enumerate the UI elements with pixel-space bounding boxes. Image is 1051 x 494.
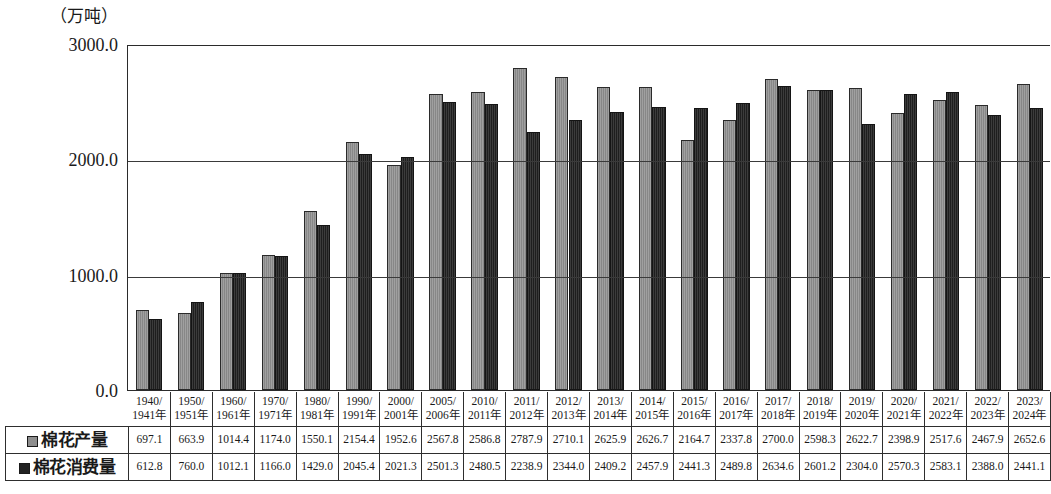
category-line: 2012年 (506, 409, 547, 423)
bar-consumption[interactable] (149, 319, 162, 390)
bar-consumption[interactable] (610, 112, 623, 390)
bar-production[interactable] (262, 255, 275, 390)
category-header-cell: 1980/1981年 (296, 392, 338, 427)
bar-production[interactable] (597, 87, 610, 390)
value-cell: 612.8 (129, 454, 171, 481)
category-line: 2013年 (548, 409, 589, 423)
bars-layer (128, 46, 1050, 390)
bar-group (422, 46, 464, 390)
bar-production[interactable] (220, 273, 233, 390)
category-line: 1951年 (171, 409, 212, 423)
bar-production[interactable] (555, 77, 568, 390)
bar-consumption[interactable] (736, 103, 749, 390)
value-cell: 2583.1 (925, 454, 967, 481)
y-tick-label: 2000.0 (69, 150, 119, 171)
bar-production[interactable] (471, 92, 484, 390)
bar-consumption[interactable] (485, 104, 498, 390)
category-line: 2012/ (548, 395, 589, 409)
category-line: 2024年 (1009, 409, 1050, 423)
table-corner-cell (6, 392, 129, 427)
value-cell: 2480.5 (464, 454, 506, 481)
category-line: 1981年 (297, 409, 338, 423)
bar-group (254, 46, 296, 390)
category-header-cell: 2010/2011年 (464, 392, 506, 427)
legend-production[interactable]: 棉花产量 (6, 427, 129, 454)
y-axis-tick-labels: 0.01000.02000.03000.0 (0, 36, 118, 382)
category-line: 2022年 (925, 409, 966, 423)
bar-consumption[interactable] (401, 157, 414, 390)
bar-group (925, 46, 967, 390)
table-header-row: 1940/1941年1950/1951年1960/1961年1970/1971年… (6, 392, 1051, 427)
bar-production[interactable] (304, 211, 317, 390)
bar-consumption[interactable] (443, 102, 456, 390)
value-cell: 2021.3 (380, 454, 422, 481)
category-line: 2016年 (674, 409, 715, 423)
value-cell: 760.0 (170, 454, 212, 481)
category-line: 2006年 (422, 409, 463, 423)
category-line: 2014年 (590, 409, 631, 423)
bar-consumption[interactable] (191, 302, 204, 390)
legend-consumption[interactable]: 棉花消费量 (6, 454, 129, 481)
category-line: 2014/ (632, 395, 673, 409)
plot-area (127, 45, 1050, 391)
bar-consumption[interactable] (233, 273, 246, 390)
bar-consumption[interactable] (317, 225, 330, 390)
value-cell: 663.9 (170, 427, 212, 454)
bar-group (296, 46, 338, 390)
category-header-cell: 2021/2022年 (925, 392, 967, 427)
value-cell: 2601.2 (799, 454, 841, 481)
bar-production[interactable] (933, 100, 946, 390)
category-header-cell: 2017/2018年 (757, 392, 799, 427)
bar-group (338, 46, 380, 390)
bar-production[interactable] (429, 94, 442, 390)
value-cell: 2344.0 (548, 454, 590, 481)
value-cell: 2622.7 (841, 427, 883, 454)
bar-consumption[interactable] (778, 86, 791, 390)
bar-consumption[interactable] (862, 124, 875, 390)
category-line: 2019年 (800, 409, 841, 423)
bar-consumption[interactable] (988, 115, 1001, 390)
value-cell: 2441.3 (673, 454, 715, 481)
bar-production[interactable] (891, 113, 904, 390)
category-line: 2020年 (841, 409, 882, 423)
bar-consumption[interactable] (359, 154, 372, 390)
bar-group (631, 46, 673, 390)
bar-consumption[interactable] (569, 120, 582, 390)
bar-production[interactable] (178, 313, 191, 390)
bar-consumption[interactable] (820, 90, 833, 390)
bar-group (590, 46, 632, 390)
value-cell: 2441.1 (1009, 454, 1051, 481)
category-line: 2013/ (590, 395, 631, 409)
bar-production[interactable] (849, 88, 862, 390)
category-line: 2023/ (1009, 395, 1050, 409)
bar-production[interactable] (513, 68, 526, 390)
bar-production[interactable] (1017, 84, 1030, 390)
bar-production[interactable] (681, 140, 694, 390)
value-cell: 1952.6 (380, 427, 422, 454)
category-line: 2011年 (464, 409, 505, 423)
category-line: 1950/ (171, 395, 212, 409)
bar-production[interactable] (765, 79, 778, 390)
bar-consumption[interactable] (694, 108, 707, 390)
bar-production[interactable] (807, 90, 820, 390)
category-line: 1991年 (339, 409, 380, 423)
bar-production[interactable] (136, 310, 149, 390)
category-line: 2021/ (925, 395, 966, 409)
category-line: 1971年 (255, 409, 296, 423)
bar-consumption[interactable] (652, 107, 665, 390)
bar-production[interactable] (346, 142, 359, 390)
value-cell: 2154.4 (338, 427, 380, 454)
bar-consumption[interactable] (946, 92, 959, 390)
bar-consumption[interactable] (1030, 108, 1043, 390)
bar-consumption[interactable] (904, 94, 917, 390)
value-cell: 1014.4 (212, 427, 254, 454)
value-cell: 2634.6 (757, 454, 799, 481)
value-cell: 697.1 (129, 427, 171, 454)
bar-consumption[interactable] (527, 132, 540, 390)
value-cell: 2787.9 (506, 427, 548, 454)
bar-production[interactable] (639, 87, 652, 390)
category-line: 2019/ (841, 395, 882, 409)
value-cell: 2238.9 (506, 454, 548, 481)
bar-production[interactable] (975, 105, 988, 390)
